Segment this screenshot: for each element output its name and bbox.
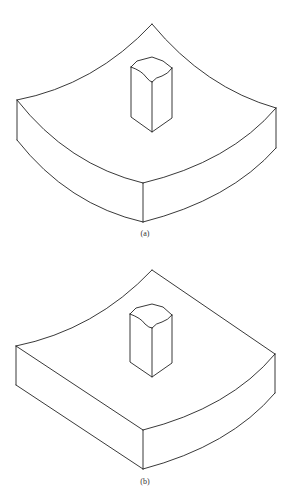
panel-a-post (131, 57, 172, 132)
panel-b-label: (b) (140, 477, 149, 486)
panel-a-label: (a) (141, 229, 150, 238)
panel-b-post (130, 304, 172, 377)
panel-a-block (17, 24, 276, 222)
panel-b-block (16, 270, 275, 469)
figure-canvas (0, 0, 289, 504)
